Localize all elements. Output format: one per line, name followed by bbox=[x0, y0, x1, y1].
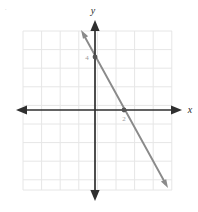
axes bbox=[16, 20, 182, 201]
point-x-intercept bbox=[122, 108, 127, 113]
line-arrowhead-lower bbox=[161, 179, 168, 188]
coordinate-plane-figure: y x 4 2 . bbox=[0, 0, 198, 212]
y-axis-arrow-up bbox=[90, 20, 99, 31]
y-axis-arrow-down bbox=[90, 190, 99, 201]
x-axis-arrow-right bbox=[171, 105, 182, 114]
corner-mark: . bbox=[5, 5, 7, 11]
x-intercept-value-label: 2 bbox=[122, 115, 126, 123]
y-axis-label: y bbox=[90, 5, 96, 16]
graph-canvas: y x 4 2 . bbox=[0, 0, 198, 212]
x-axis-arrow-left bbox=[16, 105, 27, 114]
point-y-intercept bbox=[93, 55, 98, 60]
y-intercept-value-label: 4 bbox=[85, 54, 89, 62]
x-axis-label: x bbox=[187, 104, 193, 115]
